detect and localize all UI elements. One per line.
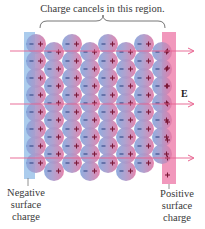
label-line: surface (152, 200, 202, 212)
polarized-molecule (62, 153, 82, 173)
region-caption: Charge cancels in this region. (0, 3, 205, 15)
region-brace (40, 15, 165, 28)
label-line: Negative (2, 187, 50, 199)
curly-brace-icon (40, 15, 165, 28)
label-line: surface (2, 199, 50, 211)
polarized-molecule (134, 153, 154, 173)
polarized-molecules (26, 34, 172, 181)
polarized-molecule (44, 161, 64, 181)
polarized-molecule (80, 161, 100, 181)
electric-field-label: E (181, 88, 188, 100)
polarized-molecule (152, 144, 172, 164)
polarized-molecule (26, 153, 46, 173)
label-line: charge (152, 212, 202, 224)
label-line: Positive (152, 188, 202, 200)
polarized-molecule (116, 161, 136, 181)
negative-surface-charge-label: Negative surface charge (2, 187, 50, 223)
positive-surface-charge-label: Positive surface charge (152, 188, 202, 224)
label-line: charge (2, 211, 50, 223)
dielectric-polarization-diagram: Charge cancels in this region. E Negativ… (0, 0, 205, 229)
polarized-molecule (98, 153, 118, 173)
